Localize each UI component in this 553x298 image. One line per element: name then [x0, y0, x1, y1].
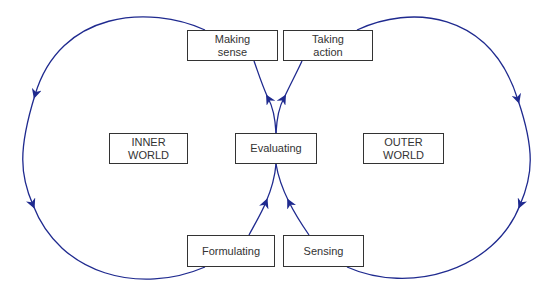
- label-outer-world: OUTER WORLD: [383, 136, 424, 162]
- outer-loop-arc: [357, 17, 518, 100]
- box-taking-action: Taking action: [283, 30, 373, 61]
- box-outer-world: OUTER WORLD: [363, 133, 444, 164]
- box-inner-world: INNER WORLD: [109, 133, 188, 164]
- label-making-sense: Making sense: [215, 33, 250, 59]
- inner-loop-arc: [35, 17, 205, 95]
- arrow-sensing-to-evaluating: [289, 202, 309, 235]
- label-taking-action: Taking action: [312, 33, 344, 59]
- arrow-formulating-to-evaluating: [249, 202, 266, 235]
- box-evaluating: Evaluating: [235, 133, 317, 164]
- label-evaluating: Evaluating: [250, 142, 301, 155]
- label-sensing: Sensing: [304, 245, 344, 258]
- arrow-evaluating-to-making-sense: [268, 98, 276, 133]
- arrow-evaluating-to-taking-action: [276, 98, 284, 133]
- label-inner-world: INNER WORLD: [128, 136, 169, 162]
- box-making-sense: Making sense: [187, 30, 278, 61]
- box-sensing: Sensing: [283, 235, 364, 267]
- box-formulating: Formulating: [187, 235, 275, 267]
- label-formulating: Formulating: [202, 245, 260, 258]
